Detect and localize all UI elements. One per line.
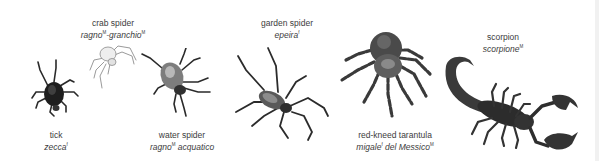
garden-spider-icon — [228, 42, 333, 142]
water-spider-icon — [140, 48, 220, 128]
italian-term: zeccaf — [36, 140, 76, 152]
english-term: crab spider — [78, 18, 148, 28]
scorpion-icon — [432, 52, 582, 160]
english-term: garden spider — [252, 18, 322, 28]
italian-term: epeiraf — [252, 28, 322, 40]
italian-term: ragnoM acquatico — [142, 140, 222, 152]
tick-icon — [30, 58, 80, 120]
italian-term: ragnoM-granchioM — [78, 28, 148, 40]
english-term: tick — [36, 130, 76, 140]
english-term: red-kneed tarantula — [345, 130, 445, 140]
crab-spider-icon — [88, 42, 138, 90]
tarantula-icon — [338, 16, 438, 120]
label-garden-spider: garden spider epeiraf — [252, 18, 322, 40]
label-red-kneed-tarantula: red-kneed tarantula migalef del MessicoM — [345, 130, 445, 152]
english-term: scorpion — [473, 32, 533, 42]
page-edge — [595, 0, 599, 161]
label-scorpion: scorpion scorpioneM — [473, 32, 533, 54]
label-water-spider: water spider ragnoM acquatico — [142, 130, 222, 152]
english-term: water spider — [142, 130, 222, 140]
italian-term: migalef del MessicoM — [345, 140, 445, 152]
label-crab-spider: crab spider ragnoM-granchioM — [78, 18, 148, 40]
label-tick: tick zeccaf — [36, 130, 76, 152]
